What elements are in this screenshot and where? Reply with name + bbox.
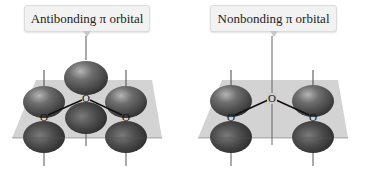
atom-o-left: O bbox=[40, 111, 48, 123]
bottom-lobe-right bbox=[105, 121, 147, 153]
atom-o-left: O bbox=[227, 111, 235, 123]
top-lobe-center bbox=[64, 61, 108, 95]
atom-o-center: O bbox=[82, 92, 90, 104]
bottom-lobe-right bbox=[292, 121, 334, 153]
bottom-lobe-center bbox=[65, 102, 107, 134]
orbital-diagrams: O O O O O O bbox=[0, 0, 369, 175]
atom-o-right: O bbox=[122, 111, 130, 123]
bottom-lobe-left bbox=[23, 121, 65, 153]
bottom-lobe-left bbox=[210, 121, 252, 153]
nonbonding-diagram: O O O bbox=[198, 36, 348, 166]
antibonding-diagram: O O O bbox=[12, 36, 162, 166]
atom-o-center: O bbox=[268, 92, 276, 104]
atom-o-right: O bbox=[309, 111, 317, 123]
